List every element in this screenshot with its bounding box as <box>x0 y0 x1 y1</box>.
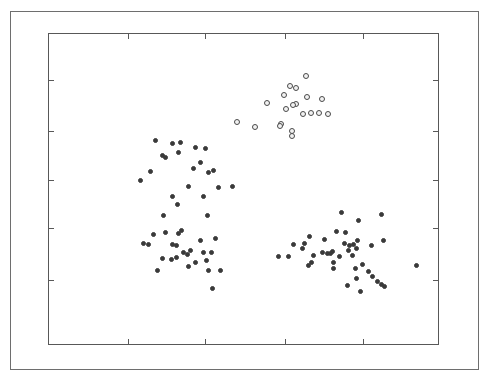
data-point <box>153 138 158 143</box>
data-point <box>201 250 206 255</box>
y-axis-tick-left-2 <box>49 180 54 181</box>
data-point <box>309 260 314 265</box>
x-axis-tick-bottom-1 <box>205 339 206 344</box>
y-axis-tick-left-0 <box>49 80 54 81</box>
data-point <box>293 85 299 91</box>
data-point <box>163 230 168 235</box>
data-point <box>193 260 198 265</box>
data-point <box>176 150 181 155</box>
y-axis-tick-right-1 <box>433 131 438 132</box>
data-point <box>283 106 289 112</box>
data-point <box>203 146 208 151</box>
data-point <box>291 242 296 247</box>
data-point <box>369 243 374 248</box>
data-point <box>307 234 312 239</box>
y-axis-tick-left-3 <box>49 228 54 229</box>
data-point <box>356 218 361 223</box>
y-axis-tick-right-0 <box>433 80 438 81</box>
x-axis-tick-top-2 <box>285 34 286 39</box>
data-point <box>345 283 350 288</box>
data-point <box>354 276 359 281</box>
data-point <box>308 110 314 116</box>
data-point <box>320 250 325 255</box>
data-point <box>350 253 355 258</box>
data-point <box>234 119 240 125</box>
y-axis-tick-right-2 <box>433 180 438 181</box>
data-point <box>179 228 184 233</box>
data-point <box>290 102 296 108</box>
data-point <box>304 94 310 100</box>
plot-axes-box <box>48 33 439 345</box>
data-point <box>186 264 191 269</box>
data-point <box>216 185 221 190</box>
data-point <box>414 263 419 268</box>
data-point <box>170 194 175 199</box>
data-point <box>175 202 180 207</box>
data-point <box>311 253 316 258</box>
x-axis-tick-bottom-3 <box>363 339 364 344</box>
data-point <box>148 169 153 174</box>
x-axis-tick-top-0 <box>128 34 129 39</box>
data-point <box>360 262 365 267</box>
data-point <box>210 286 215 291</box>
data-point <box>337 254 342 259</box>
data-point <box>205 213 210 218</box>
data-point <box>174 255 179 260</box>
data-point <box>331 266 336 271</box>
data-point <box>325 111 331 117</box>
data-point <box>366 269 371 274</box>
data-point <box>264 100 270 106</box>
x-axis-tick-top-3 <box>363 34 364 39</box>
data-point <box>277 123 283 129</box>
data-point <box>206 170 211 175</box>
data-point <box>358 289 363 294</box>
data-point <box>276 254 281 259</box>
data-point <box>169 257 174 262</box>
data-point <box>188 248 193 253</box>
data-point <box>201 194 206 199</box>
data-point <box>342 241 347 246</box>
data-point <box>302 241 307 246</box>
data-point <box>331 260 336 265</box>
data-point <box>334 229 339 234</box>
data-point <box>230 184 235 189</box>
data-point <box>209 250 214 255</box>
data-point <box>316 110 322 116</box>
data-point <box>198 238 203 243</box>
data-point <box>289 133 295 139</box>
data-point <box>319 96 325 102</box>
data-point <box>198 160 203 165</box>
data-point <box>174 243 179 248</box>
data-point <box>161 213 166 218</box>
data-point <box>346 248 351 253</box>
data-point <box>300 111 306 117</box>
data-point <box>322 237 327 242</box>
scatter-plot-figure <box>0 0 490 382</box>
data-point <box>160 256 165 261</box>
data-point <box>381 238 386 243</box>
data-point <box>193 145 198 150</box>
data-point <box>138 178 143 183</box>
data-point <box>186 184 191 189</box>
x-axis-tick-bottom-2 <box>285 339 286 344</box>
data-point <box>353 266 358 271</box>
data-point <box>206 268 211 273</box>
y-axis-tick-left-4 <box>49 280 54 281</box>
data-point <box>213 236 218 241</box>
data-point <box>252 124 258 130</box>
data-point <box>163 155 168 160</box>
y-axis-tick-right-3 <box>433 228 438 229</box>
data-point <box>204 258 209 263</box>
data-point <box>141 241 146 246</box>
data-point <box>211 168 216 173</box>
data-point <box>170 141 175 146</box>
data-point <box>281 92 287 98</box>
data-point <box>343 230 348 235</box>
data-point <box>339 210 344 215</box>
data-point <box>354 246 359 251</box>
data-point <box>328 251 333 256</box>
data-point <box>151 232 156 237</box>
data-point <box>191 166 196 171</box>
data-point <box>300 246 305 251</box>
data-point <box>146 242 151 247</box>
